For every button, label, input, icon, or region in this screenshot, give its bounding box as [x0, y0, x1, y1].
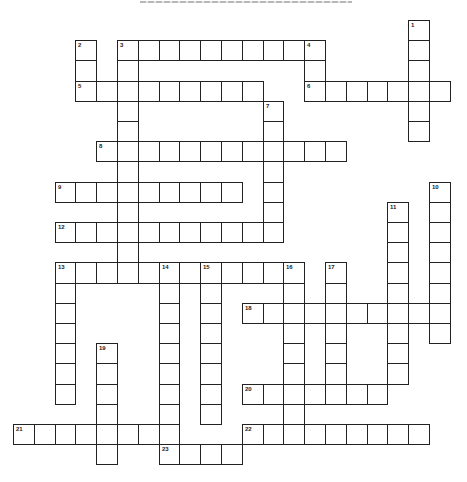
crossword-cell[interactable]	[283, 384, 305, 405]
crossword-cell[interactable]	[200, 40, 222, 61]
crossword-cell[interactable]: 23	[159, 444, 180, 465]
crossword-cell[interactable]	[159, 81, 180, 102]
crossword-cell[interactable]: 17	[325, 262, 347, 284]
crossword-cell[interactable]	[55, 384, 76, 405]
crossword-cell[interactable]	[159, 424, 180, 445]
crossword-cell[interactable]: 2	[75, 40, 97, 61]
crossword-cell[interactable]	[96, 363, 118, 385]
crossword-cell[interactable]	[117, 101, 139, 122]
crossword-cell[interactable]	[179, 262, 201, 284]
crossword-cell[interactable]	[179, 141, 201, 162]
crossword-cell[interactable]	[367, 81, 388, 102]
crossword-cell[interactable]	[263, 384, 284, 405]
crossword-cell[interactable]	[221, 222, 243, 243]
crossword-cell[interactable]: 12	[55, 222, 76, 243]
crossword-cell[interactable]: 1	[408, 20, 430, 41]
crossword-cell[interactable]	[263, 303, 284, 324]
crossword-cell[interactable]	[387, 283, 409, 304]
crossword-cell[interactable]	[138, 182, 160, 203]
crossword-cell[interactable]	[138, 424, 160, 445]
crossword-cell[interactable]	[221, 262, 243, 284]
crossword-cell[interactable]	[117, 262, 139, 284]
crossword-cell[interactable]	[55, 343, 76, 364]
crossword-cell[interactable]: 10	[429, 182, 451, 203]
crossword-cell[interactable]	[346, 303, 368, 324]
crossword-cell[interactable]	[429, 262, 451, 284]
crossword-cell[interactable]	[387, 323, 409, 344]
crossword-cell[interactable]	[408, 101, 430, 122]
crossword-cell[interactable]	[200, 182, 222, 203]
crossword-cell[interactable]	[408, 60, 430, 82]
crossword-cell[interactable]	[263, 161, 284, 183]
crossword-cell[interactable]	[96, 404, 118, 425]
crossword-cell[interactable]	[429, 283, 451, 304]
crossword-cell[interactable]	[159, 141, 180, 162]
crossword-cell[interactable]	[200, 343, 222, 364]
crossword-cell[interactable]	[96, 81, 118, 102]
crossword-cell[interactable]	[179, 182, 201, 203]
crossword-cell[interactable]	[242, 141, 264, 162]
crossword-cell[interactable]	[346, 384, 368, 405]
crossword-cell[interactable]	[200, 81, 222, 102]
crossword-cell[interactable]	[55, 424, 76, 445]
crossword-cell[interactable]	[159, 404, 180, 425]
crossword-cell[interactable]	[346, 81, 368, 102]
crossword-cell[interactable]	[200, 323, 222, 344]
crossword-cell[interactable]	[263, 121, 284, 142]
crossword-cell[interactable]	[75, 182, 97, 203]
crossword-cell[interactable]	[408, 303, 430, 324]
crossword-cell[interactable]	[387, 303, 409, 324]
crossword-cell[interactable]	[283, 323, 305, 344]
crossword-cell[interactable]: 14	[159, 262, 180, 284]
crossword-cell[interactable]	[179, 40, 201, 61]
crossword-cell[interactable]	[283, 404, 305, 425]
crossword-cell[interactable]	[263, 202, 284, 223]
crossword-cell[interactable]	[429, 303, 451, 324]
crossword-cell[interactable]	[138, 262, 160, 284]
crossword-cell[interactable]	[55, 363, 76, 385]
crossword-cell[interactable]	[263, 222, 284, 243]
crossword-cell[interactable]	[325, 384, 347, 405]
crossword-cell[interactable]	[159, 384, 180, 405]
crossword-cell[interactable]	[117, 202, 139, 223]
crossword-cell[interactable]	[96, 222, 118, 243]
crossword-cell[interactable]	[429, 323, 451, 344]
crossword-cell[interactable]	[200, 222, 222, 243]
crossword-cell[interactable]: 9	[55, 182, 76, 203]
crossword-cell[interactable]	[304, 303, 326, 324]
crossword-cell[interactable]	[408, 40, 430, 61]
crossword-cell[interactable]	[387, 242, 409, 263]
crossword-cell[interactable]	[55, 283, 76, 304]
crossword-cell[interactable]	[387, 343, 409, 364]
crossword-cell[interactable]	[263, 182, 284, 203]
crossword-cell[interactable]: 4	[304, 40, 326, 61]
crossword-cell[interactable]	[429, 222, 451, 243]
crossword-cell[interactable]: 3	[117, 40, 139, 61]
crossword-cell[interactable]	[138, 141, 160, 162]
crossword-cell[interactable]	[200, 141, 222, 162]
crossword-cell[interactable]	[387, 81, 409, 102]
crossword-cell[interactable]	[117, 161, 139, 183]
crossword-cell[interactable]	[96, 444, 118, 465]
crossword-cell[interactable]	[429, 202, 451, 223]
crossword-cell[interactable]	[367, 303, 388, 324]
crossword-cell[interactable]	[325, 81, 347, 102]
crossword-cell[interactable]	[75, 222, 97, 243]
crossword-cell[interactable]	[304, 384, 326, 405]
crossword-cell[interactable]	[325, 283, 347, 304]
crossword-cell[interactable]	[429, 242, 451, 263]
crossword-cell[interactable]	[159, 343, 180, 364]
crossword-cell[interactable]	[429, 81, 451, 102]
crossword-cell[interactable]	[117, 222, 139, 243]
crossword-cell[interactable]: 21	[13, 424, 35, 445]
crossword-cell[interactable]	[55, 323, 76, 344]
crossword-cell[interactable]	[117, 81, 139, 102]
crossword-cell[interactable]	[138, 40, 160, 61]
crossword-cell[interactable]	[221, 141, 243, 162]
crossword-cell[interactable]	[242, 262, 264, 284]
crossword-cell[interactable]	[283, 141, 305, 162]
crossword-cell[interactable]	[159, 323, 180, 344]
crossword-cell[interactable]	[117, 121, 139, 142]
crossword-cell[interactable]	[242, 40, 264, 61]
crossword-cell[interactable]	[159, 283, 180, 304]
